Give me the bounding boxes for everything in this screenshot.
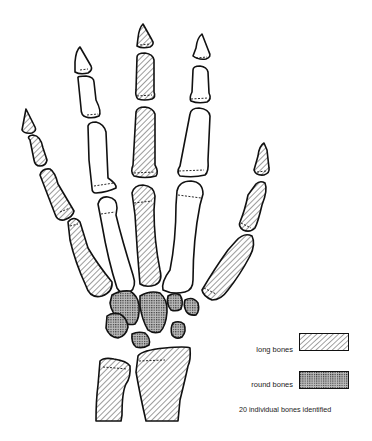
little-middle-phalanx: [29, 135, 47, 166]
thumb: [202, 143, 269, 300]
ring-middle-phalanx: [78, 76, 100, 118]
legend-swatch-long-bones: [299, 333, 349, 351]
little-distal-phalanx: [22, 109, 36, 133]
trapezium: [184, 299, 198, 316]
middle-proximal-phalanx: [132, 107, 158, 178]
ring-proximal-phalanx: [88, 122, 116, 193]
ulna: [96, 358, 130, 421]
little-proximal-phalanx: [40, 169, 74, 220]
ring-distal-phalanx: [75, 47, 92, 74]
legend-label-long-bones: long bones: [236, 345, 293, 354]
carpal-bones: [106, 291, 199, 348]
thumb-distal-phalanx: [254, 143, 269, 175]
capitate: [140, 292, 167, 333]
middle-metacarpal: [132, 185, 161, 286]
forearm-bones: [96, 347, 190, 421]
index-middle-phalanx: [190, 66, 210, 103]
index-distal-phalanx: [193, 34, 210, 59]
thumb-proximal-phalanx: [239, 182, 266, 231]
index-finger: [163, 34, 210, 293]
middle-middle-phalanx: [136, 53, 155, 100]
triquetrum: [106, 313, 128, 338]
scaphoid: [171, 322, 185, 338]
legend-label-round-bones: round bones: [236, 380, 293, 389]
trapezoid: [167, 294, 182, 311]
index-proximal-phalanx: [178, 108, 210, 177]
legend-caption: 20 individual bones identified: [239, 405, 331, 414]
pisiform: [132, 332, 150, 347]
radius: [136, 347, 190, 421]
thumb-metacarpal: [202, 235, 254, 300]
middle-finger: [132, 24, 161, 286]
legend-swatch-round-bones: [299, 371, 349, 389]
